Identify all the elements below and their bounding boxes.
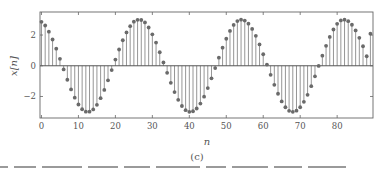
stem-marker [43,24,47,28]
stem-marker [265,63,269,67]
stem-marker [309,84,313,88]
x-tick-label: 20 [110,121,121,131]
stem-marker [99,96,103,100]
stem-marker [243,19,247,23]
stem-marker [102,88,106,92]
stem-marker [350,23,354,27]
stem-marker [47,30,51,34]
stem-marker [324,44,328,48]
stem-marker [365,54,369,58]
stem-marker [357,36,361,40]
stem-marker [110,68,114,72]
stem-marker [187,110,191,114]
stem-marker [91,107,95,111]
stem-marker [125,31,129,35]
stem-marker [88,110,92,114]
stem-marker [51,38,55,42]
stem-marker [239,18,243,22]
stem-marker [328,35,332,39]
stem-plot-figure: 01020304050607080 −202 n x[n] (c) [0,0,381,169]
stem-marker [106,78,110,82]
stem-marker [165,71,169,75]
stem-marker [173,90,177,94]
stem-marker [346,19,350,23]
y-axis-label: x[n] [8,56,19,76]
stem-marker [269,73,273,77]
x-tick-label: 70 [295,121,306,131]
stem-marker [143,21,147,25]
stem-marker [298,105,302,109]
stem-marker [343,18,347,22]
stem-marker [54,47,58,51]
stem-marker [184,108,188,112]
stem-marker [291,110,295,114]
x-tick-label: 30 [147,121,158,131]
stem-marker [280,100,284,104]
stem-marker [272,83,276,87]
stem-marker [80,107,84,111]
stem-marker [287,109,291,113]
stem-marker [158,50,162,54]
stem-marker [195,107,199,111]
stem-marker [228,29,232,33]
stem-marker [95,103,99,107]
stem-marker [73,96,77,100]
x-tick-label: 0 [39,121,44,131]
figure-caption: (c) [190,151,204,162]
stem-marker [84,110,88,114]
stem-marker [136,18,140,22]
stem-marker [206,86,210,90]
stem-marker [62,68,66,72]
stem-marker [150,32,154,36]
stem-marker [132,20,136,24]
stem-marker [247,22,251,26]
stem-marker [217,56,221,60]
stem-marker [361,44,365,48]
stem-marker [154,41,158,45]
stem-marker [284,105,288,109]
stem-marker [117,48,121,52]
stem-marker [354,29,358,33]
stem-marker [162,60,166,64]
x-tick-label: 80 [332,121,343,131]
stem-marker [295,109,299,113]
stem-marker [128,24,132,28]
stem-marker [320,54,324,58]
stem-marker [224,37,228,41]
cropped-text-line [0,166,381,169]
stem-marker [313,74,317,78]
stem-marker [302,100,306,104]
stem-marker [317,64,321,68]
stem-marker [261,52,265,56]
stem-marker [199,102,203,106]
stem-marker [235,19,239,23]
stem-marker [121,38,125,42]
stem-marker [113,58,117,62]
y-tick-label: −2 [23,91,36,101]
stem-marker [139,18,143,22]
stem-marker [339,19,343,23]
stem-marker [147,26,151,30]
y-tick-label: 0 [31,61,36,71]
stem-marker [335,22,339,26]
stem-marker [77,103,81,107]
stem-marker [276,92,280,96]
y-tick-label: 2 [31,30,36,40]
stem-marker [332,28,336,32]
stem-marker [180,104,184,108]
stem-marker [169,81,173,85]
stem-marker [232,23,236,27]
x-tick-label: 60 [258,121,269,131]
stem-marker [213,66,217,70]
stem-marker [191,109,195,113]
stem-marker [58,57,62,61]
stem-marker [69,88,73,92]
stem-marker [254,34,258,38]
stem-marker [250,27,254,31]
stem-marker [258,43,262,47]
stem-marker [65,78,69,82]
stem-marker [176,98,180,102]
x-tick-label: 10 [73,121,84,131]
x-tick-label: 40 [184,121,195,131]
stem-marker [210,76,214,80]
